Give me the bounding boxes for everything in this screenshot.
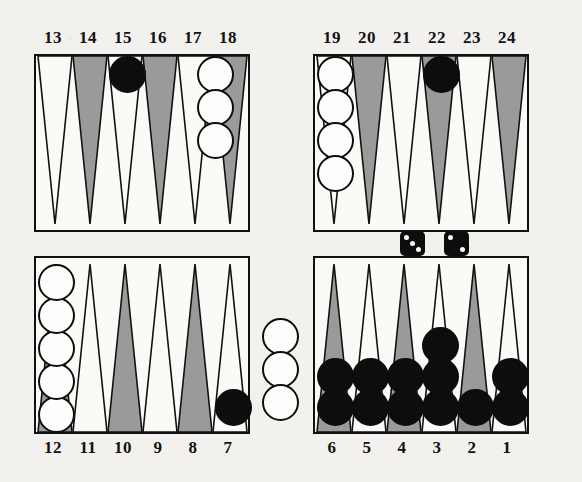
backgammon-board: 13 14 15 16 17 18 19 20 21 22 23 24 12 1… xyxy=(0,0,582,482)
checker-point-22[interactable] xyxy=(423,56,460,93)
checker-point-19[interactable] xyxy=(317,56,354,93)
bar-checker-white[interactable] xyxy=(262,384,299,421)
bar-checker-white[interactable] xyxy=(262,318,299,355)
checker-point-17[interactable] xyxy=(197,89,234,126)
die-two[interactable] xyxy=(444,231,469,256)
die-one[interactable] xyxy=(400,231,425,256)
die-pip xyxy=(448,235,453,240)
checker-point-12[interactable] xyxy=(38,264,75,301)
die-pip xyxy=(410,241,415,246)
point-label-24: 24 xyxy=(485,28,529,48)
checker-point-12[interactable] xyxy=(38,396,75,433)
checker-point-6[interactable] xyxy=(317,358,354,395)
die-pip xyxy=(460,247,465,252)
checker-point-4[interactable] xyxy=(387,358,424,395)
point-label-18: 18 xyxy=(206,28,250,48)
point-label-1: 1 xyxy=(485,438,529,458)
checker-point-5[interactable] xyxy=(352,358,389,395)
checker-point-12[interactable] xyxy=(38,330,75,367)
checker-point-1[interactable] xyxy=(492,358,529,395)
die-pip xyxy=(404,235,409,240)
checker-point-17[interactable] xyxy=(197,122,234,159)
bar-checker-white[interactable] xyxy=(262,351,299,388)
checker-point-15[interactable] xyxy=(109,56,146,93)
checker-point-19[interactable] xyxy=(317,89,354,126)
checker-point-12[interactable] xyxy=(38,297,75,334)
checker-point-3[interactable] xyxy=(422,327,459,364)
checker-point-12[interactable] xyxy=(38,363,75,400)
checker-point-7[interactable] xyxy=(215,389,252,426)
checker-point-19[interactable] xyxy=(317,122,354,159)
checker-point-17[interactable] xyxy=(197,56,234,93)
die-pip xyxy=(416,247,421,252)
checker-point-2[interactable] xyxy=(457,389,494,426)
checker-point-19[interactable] xyxy=(317,155,354,192)
point-label-7: 7 xyxy=(206,438,250,458)
